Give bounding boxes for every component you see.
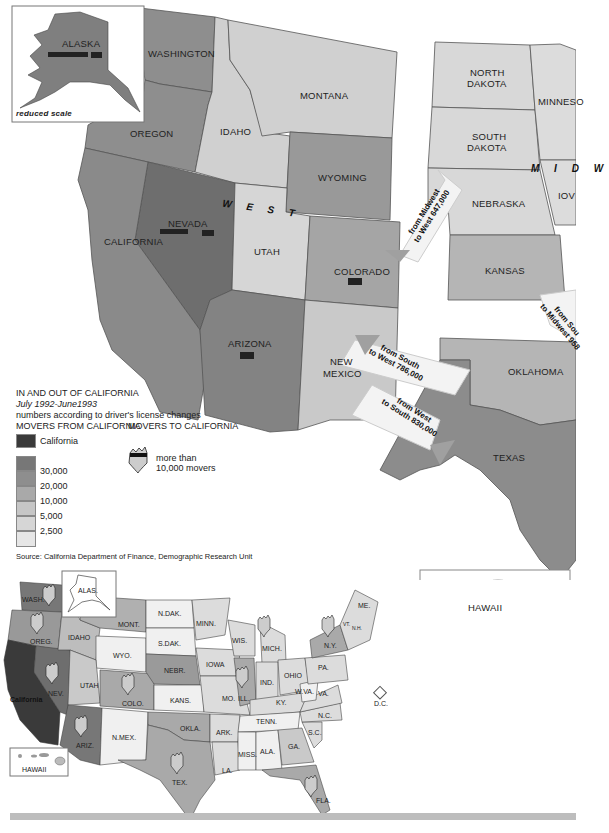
us-island: [31, 755, 37, 758]
us-label-okla: OKLA.: [180, 725, 201, 733]
us-label-ky: KY.: [276, 699, 286, 707]
us-label-dc: D.C.: [374, 700, 388, 708]
us-label-colo: COLO.: [122, 700, 144, 708]
us-state-ark: [210, 714, 240, 742]
us-label-nc: N.C.: [318, 712, 332, 720]
us-label-mont: MONT.: [118, 621, 140, 629]
us-label-vt: VT.: [343, 620, 350, 628]
us-label-ark: ARK.: [216, 729, 232, 737]
us-label-ga: GA.: [288, 743, 300, 751]
us-label-pa: PA.: [318, 664, 329, 672]
us-island: [39, 753, 49, 757]
us-label-tenn: TENN.: [256, 718, 277, 726]
us-label-ill: ILL.: [238, 695, 250, 703]
us-label-la: LA.: [222, 767, 233, 775]
us-label-ala: ALA.: [260, 748, 275, 756]
us-label-oreg: OREG.: [30, 638, 53, 646]
us-label-california: California: [10, 696, 42, 704]
us-label-ohio: OHIO: [284, 672, 302, 680]
us-label-nebr: NEBR.: [164, 667, 185, 675]
us-label-va: VA.: [318, 690, 329, 698]
us-label-mo: MO.: [222, 695, 235, 703]
us-label-nev: NEV.: [48, 690, 64, 698]
us-label-wva: W.VA.: [295, 688, 314, 696]
us-label-utah: UTAH: [80, 682, 99, 690]
us-state-fla: [262, 765, 330, 815]
us-label-miss: MISS.: [238, 751, 257, 759]
us-label-wash: WASH.: [22, 596, 45, 604]
us-label-nmex: N.MEX.: [112, 734, 136, 742]
us-state-minn: [192, 598, 230, 640]
us-label-me: ME.: [358, 602, 370, 610]
us-label-tex: TEX.: [172, 779, 188, 787]
us-label-ny: N.Y.: [324, 642, 337, 650]
us-island: [55, 757, 65, 765]
us-label-kans: KANS.: [170, 697, 191, 705]
us-label-minn: MINN.: [196, 620, 216, 628]
us-label-iowa: IOWA: [206, 661, 224, 669]
us-label-idaho: IDAHO: [68, 634, 90, 642]
us-label-nh: N.H.: [352, 624, 362, 632]
us-label-ndak: N.DAK.: [158, 610, 181, 618]
us-label-wis: WIS.: [232, 637, 247, 645]
us-label-sc: S.C.: [308, 729, 322, 737]
us-label-sdak: S.DAK.: [158, 640, 181, 648]
us-label-ariz: ARIZ.: [76, 742, 94, 750]
us-island: [18, 754, 22, 758]
us-label-alas: ALAS.: [78, 587, 98, 595]
us-label-ind: IND.: [260, 679, 274, 687]
us-label-fla: FLA.: [316, 797, 331, 805]
dc-marker: [374, 686, 387, 699]
us-label-hawaii: HAWAII: [22, 766, 46, 774]
us-label-wyo: WYO.: [113, 652, 132, 660]
bottom-rule: [10, 813, 576, 820]
us-label-mich: MICH.: [262, 645, 282, 653]
